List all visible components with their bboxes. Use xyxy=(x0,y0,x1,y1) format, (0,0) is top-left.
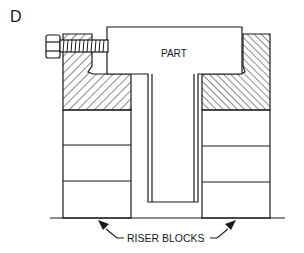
panel-label: D xyxy=(10,8,22,25)
part-label: PART xyxy=(161,48,187,59)
leader-arrow-left xyxy=(98,220,124,238)
riser-stack-right xyxy=(202,110,270,218)
leader-arrow-right xyxy=(210,220,236,238)
riser-stack-left xyxy=(63,110,131,218)
riser-blocks-diagram: D PART xyxy=(0,0,304,253)
callout-label: RISER BLOCKS xyxy=(127,232,205,244)
